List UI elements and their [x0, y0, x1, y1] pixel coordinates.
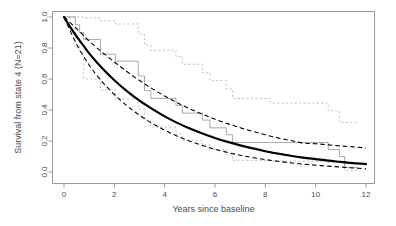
x-tick-label: 8: [263, 190, 268, 199]
y-tick-label: 1.0: [40, 11, 49, 23]
x-tick-label: 0: [62, 190, 67, 199]
survival-plot-figure: 024681012 0.00.20.40.60.81.0 Years since…: [0, 0, 396, 226]
y-tick-label: 0.0: [40, 166, 49, 178]
y-tick-label: 0.4: [40, 104, 49, 116]
y-tick-label: 0.6: [40, 73, 49, 85]
x-tick-label: 12: [362, 190, 371, 199]
y-axis-title: Survival from state 4 (N=21): [13, 41, 23, 153]
x-axis-title: Years since baseline: [172, 204, 254, 214]
x-tick-label: 6: [213, 190, 218, 199]
x-tick-label: 4: [162, 190, 167, 199]
x-tick-label: 2: [112, 190, 117, 199]
y-tick-label: 0.8: [40, 42, 49, 54]
plot-canvas: 024681012 0.00.20.40.60.81.0 Years since…: [0, 0, 396, 226]
x-tick-label: 10: [311, 190, 320, 199]
y-tick-label: 0.2: [40, 135, 49, 147]
